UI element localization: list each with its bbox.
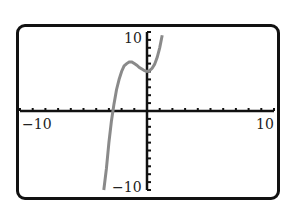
x-max-label: 10 [256,117,274,131]
function-curve [104,35,162,190]
graph-plot [0,0,292,207]
y-min-label: −10 [112,180,142,194]
x-min-label: −10 [22,117,52,131]
y-max-label: 10 [124,31,142,45]
axes [20,32,274,190]
